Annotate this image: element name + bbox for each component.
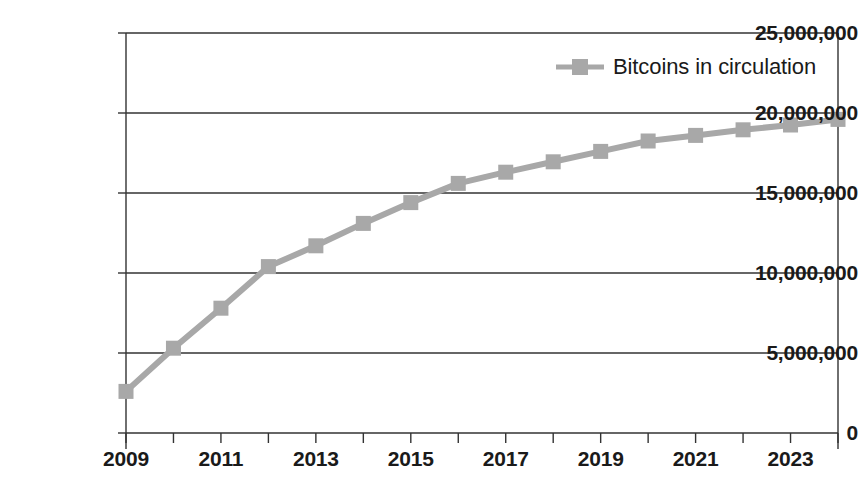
x-axis-tick-label: 2019: [578, 447, 624, 471]
x-axis-tick-label: 2021: [673, 447, 719, 471]
bitcoin-circulation-chart: 05,000,00010,000,00015,000,00020,000,000…: [0, 0, 858, 481]
y-axis-ticks: [118, 33, 126, 433]
legend: Bitcoins in circulation: [556, 50, 816, 84]
x-axis-tick-label: 2023: [768, 447, 814, 471]
legend-marker-icon: [556, 57, 604, 77]
x-axis-tick-label: 2013: [293, 447, 339, 471]
data-series-group: [119, 112, 846, 399]
axis-lines: [126, 33, 838, 449]
x-axis-tick-label: 2009: [103, 447, 149, 471]
x-axis-tick-label: 2015: [388, 447, 434, 471]
legend-label: Bitcoins in circulation: [613, 54, 816, 80]
x-axis-tick-label: 2017: [483, 447, 529, 471]
y-axis-tick-label: 25,000,000: [740, 21, 858, 45]
y-axis-tick-label: 5,000,000: [740, 341, 858, 365]
x-axis-tick-label: 2011: [199, 447, 244, 471]
x-axis-ticks: [126, 433, 838, 443]
y-axis-tick-label: 15,000,000: [740, 181, 858, 205]
y-axis-tick-label: 10,000,000: [740, 261, 858, 285]
y-axis-tick-label: 0: [740, 421, 858, 445]
y-axis-tick-label: 20,000,000: [740, 101, 858, 125]
